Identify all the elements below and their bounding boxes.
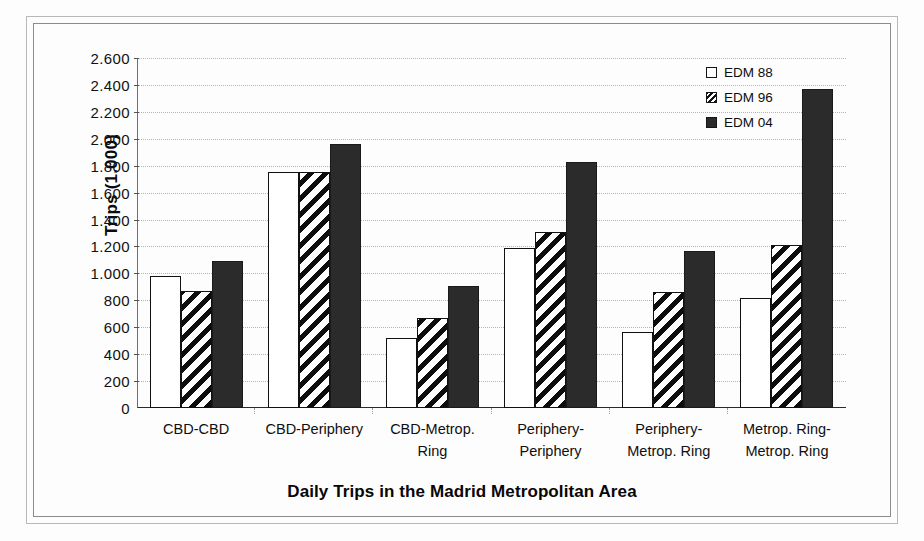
y-tick-label: 0 [121, 400, 130, 417]
x-tick-label: CBD-Metrop.Ring [373, 418, 491, 462]
y-tick-label: 1.600 [90, 184, 130, 201]
bar-group [492, 58, 610, 408]
bar-group [137, 58, 255, 408]
y-tick-label: 1.200 [90, 238, 130, 255]
legend-item[interactable]: EDM 96 [706, 85, 826, 110]
chart-figure: Trips (1.000) 02004006008001.0001.2001.4… [0, 0, 924, 541]
x-axis-tick-labels: CBD-CBDCBD-PeripheryCBD-Metrop.RingPerip… [137, 418, 846, 462]
bar[interactable] [771, 245, 802, 408]
y-tick-label: 2.000 [90, 130, 130, 147]
legend-swatch-icon [706, 67, 717, 78]
bar[interactable] [740, 298, 771, 408]
legend-label: EDM 96 [724, 90, 773, 105]
x-tick-mark [491, 408, 492, 414]
x-tick-label: CBD-CBD [137, 418, 255, 462]
x-tick-mark [372, 408, 373, 414]
x-tick-label-line: CBD-Metrop. [375, 418, 489, 440]
bar[interactable] [653, 292, 684, 408]
x-tick-label-line: Metrop. Ring [612, 440, 726, 462]
x-tick-label: Metrop. Ring-Metrop. Ring [728, 418, 846, 462]
bar-group [255, 58, 373, 408]
bar[interactable] [417, 318, 448, 408]
x-tick-label-line: Metrop. Ring- [730, 418, 844, 440]
legend-item[interactable]: EDM 88 [706, 60, 826, 85]
x-tick-label-line: Periphery [494, 440, 608, 462]
bar[interactable] [566, 162, 597, 408]
x-tick-label-line: Periphery- [612, 418, 726, 440]
x-tick-label: Periphery-Metrop. Ring [610, 418, 728, 462]
bar[interactable] [330, 144, 361, 408]
bar[interactable] [386, 338, 417, 408]
y-axis-tick-labels: 02004006008001.0001.2001.4001.6001.8002.… [52, 58, 130, 408]
legend-label: EDM 88 [724, 65, 773, 80]
x-tick-label-line: CBD-Periphery [257, 418, 371, 440]
y-tick-label: 1.400 [90, 211, 130, 228]
bar[interactable] [622, 332, 653, 408]
x-tick-label: CBD-Periphery [255, 418, 373, 462]
x-tick-label-line: CBD-CBD [139, 418, 253, 440]
bar-group [373, 58, 491, 408]
bar[interactable] [535, 232, 566, 408]
legend-swatch-icon [706, 117, 717, 128]
legend-label: EDM 04 [724, 115, 773, 130]
x-tick-mark [727, 408, 728, 414]
bar[interactable] [150, 276, 181, 408]
y-tick-label: 200 [104, 373, 130, 390]
bar[interactable] [181, 291, 212, 408]
y-tick-label: 2.600 [90, 50, 130, 67]
legend-item[interactable]: EDM 04 [706, 110, 826, 135]
y-tick-label: 2.200 [90, 103, 130, 120]
y-tick-label: 1.800 [90, 157, 130, 174]
y-tick-label: 600 [104, 319, 130, 336]
x-tick-label-line: Periphery- [494, 418, 608, 440]
chart-title: Daily Trips in the Madrid Metropolitan A… [0, 482, 924, 502]
bar[interactable] [268, 172, 299, 408]
x-tick-label-line: Ring [375, 440, 489, 462]
x-tick-mark [609, 408, 610, 414]
x-tick-label-line: Metrop. Ring [730, 440, 844, 462]
bar[interactable] [802, 89, 833, 408]
y-tick-label: 1.000 [90, 265, 130, 282]
bar[interactable] [684, 251, 715, 409]
bar[interactable] [448, 286, 479, 409]
legend-swatch-icon [706, 92, 717, 103]
y-tick-label: 2.400 [90, 76, 130, 93]
x-tick-label: Periphery-Periphery [492, 418, 610, 462]
bar[interactable] [299, 172, 330, 408]
y-tick-label: 800 [104, 292, 130, 309]
y-tick-label: 400 [104, 346, 130, 363]
x-tick-mark [254, 408, 255, 414]
chart-legend: EDM 88EDM 96EDM 04 [706, 60, 826, 135]
bar[interactable] [504, 248, 535, 408]
bar[interactable] [212, 261, 243, 408]
